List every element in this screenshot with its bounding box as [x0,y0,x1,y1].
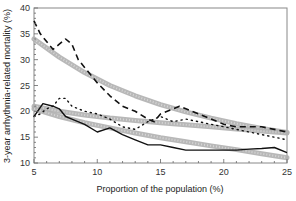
x-tick-label: 20 [219,167,229,177]
chart: 510152025 10152025303540 Proportion of t… [0,0,296,201]
y-tick-label: 35 [20,29,30,39]
x-axis: 510152025 [31,159,292,177]
x-axis-label: Proportion of the population (%) [96,184,223,194]
x-tick-label: 5 [31,167,36,177]
y-axis: 10152025303540 [20,3,38,168]
y-tick-label: 25 [20,81,30,91]
y-tick-label: 30 [20,55,30,65]
x-tick-label: 15 [155,167,165,177]
x-tick-label: 25 [282,167,292,177]
y-tick-label: 10 [20,158,30,168]
fit-band-lower-fit [34,109,287,158]
x-tick-label: 10 [92,167,102,177]
fit-bands [34,39,287,158]
observed-lines [34,21,287,153]
y-axis-label: 3-year arrhythmia-related mortality (%) [2,9,12,163]
y-tick-label: 40 [20,3,30,13]
y-tick-label: 20 [20,106,30,116]
y-tick-label: 15 [20,132,30,142]
